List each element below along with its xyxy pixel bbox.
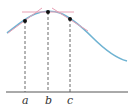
point-a — [23, 19, 27, 23]
diagram-canvas: a b c — [0, 0, 136, 110]
point-b — [46, 10, 50, 14]
label-c: c — [67, 94, 73, 107]
point-c — [68, 17, 72, 21]
label-b: b — [45, 94, 52, 107]
label-a: a — [22, 94, 29, 107]
